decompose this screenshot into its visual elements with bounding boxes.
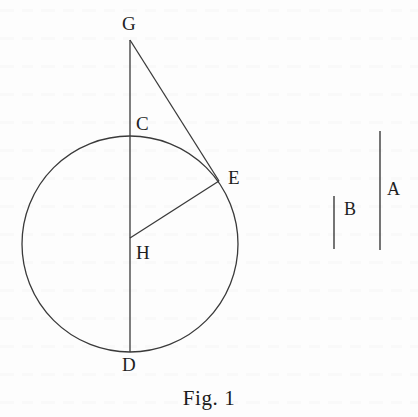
figure-caption: Fig. 1 xyxy=(0,386,418,411)
segment-ge xyxy=(130,40,219,181)
figure-container: G C E H D A B Fig. 1 xyxy=(0,0,418,417)
point-label-h: H xyxy=(136,243,150,262)
point-label-e: E xyxy=(228,168,240,187)
point-label-g: G xyxy=(122,14,136,33)
point-label-c: C xyxy=(136,114,149,133)
segment-label-b: B xyxy=(344,200,356,218)
segment-label-a: A xyxy=(387,180,400,198)
segment-he xyxy=(130,181,219,238)
point-label-d: D xyxy=(122,355,136,374)
